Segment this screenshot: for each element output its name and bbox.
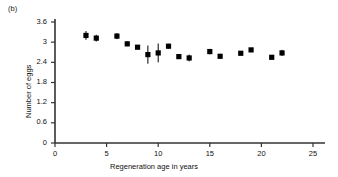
data-point-marker [176, 54, 181, 59]
x-axis-label: Regeneration age in years [110, 162, 198, 171]
data-point-marker [248, 47, 253, 52]
data-point-marker [135, 45, 140, 50]
data-point-marker [187, 55, 192, 60]
data-point-marker [125, 41, 130, 46]
y-tick-label: 0.6 [25, 117, 47, 126]
data-point-marker [94, 36, 99, 41]
data-point-marker [145, 52, 150, 57]
data-point-marker [218, 54, 223, 59]
y-tick-label: 3 [25, 37, 47, 46]
y-axis-label: Number of eggs [24, 65, 33, 118]
y-tick-label: 0 [25, 138, 47, 147]
x-tick-label: 20 [251, 149, 271, 158]
data-point-marker [83, 33, 88, 38]
data-point-marker [279, 50, 284, 55]
data-point-marker [269, 55, 274, 60]
data-point-marker [114, 34, 119, 39]
x-tick-label: 15 [200, 149, 220, 158]
y-tick-label: 3.6 [25, 17, 47, 26]
data-point-marker [156, 50, 161, 55]
data-point-marker [238, 51, 243, 56]
x-tick-label: 25 [303, 149, 323, 158]
x-tick-label: 10 [148, 149, 168, 158]
x-tick-label: 0 [45, 149, 65, 158]
x-tick-label: 5 [97, 149, 117, 158]
data-point-marker [166, 44, 171, 49]
data-point-marker [207, 49, 212, 54]
